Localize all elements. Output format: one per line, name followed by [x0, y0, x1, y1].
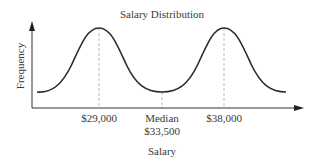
median-label: Median — [145, 113, 179, 124]
peak2-label: $38,000 — [206, 113, 242, 124]
distribution-curve — [37, 28, 286, 92]
chart-title: Salary Distribution — [120, 9, 204, 20]
salary-distribution-chart — [0, 0, 318, 165]
median-value-label: $33,500 — [144, 126, 180, 137]
y-axis-label: Frequency — [15, 43, 26, 89]
x-axis-arrow-icon — [294, 105, 304, 111]
y-axis-arrow-icon — [29, 21, 35, 31]
x-axis-label: Salary — [148, 146, 176, 157]
peak1-label: $29,000 — [81, 113, 117, 124]
